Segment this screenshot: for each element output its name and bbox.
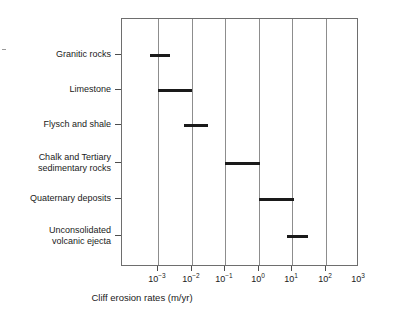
ytick-quaternary-deposits bbox=[115, 198, 121, 199]
xlabel-1e1-mantissa: 10 bbox=[284, 274, 294, 284]
ylabel-quaternary-deposits: Quaternary deposits bbox=[30, 193, 111, 204]
ytick-chalk-and-tertiary-sedimentary-rocks bbox=[115, 162, 121, 163]
gridline-1e-2 bbox=[192, 19, 193, 265]
x-axis-title-text: Cliff erosion rates (m/yr) bbox=[91, 292, 192, 303]
gridline-1e0 bbox=[259, 19, 260, 265]
xlabel-1e3-exponent: 3 bbox=[361, 272, 365, 279]
xlabel-1e0-mantissa: 10 bbox=[251, 274, 261, 284]
x-axis-title: Cliff erosion rates (m/yr) bbox=[0, 292, 396, 303]
cliff-erosion-rates-chart: Granitic rocks Limestone Flysch and shal… bbox=[0, 0, 396, 321]
ylabel-chalk-and-tertiary-sedimentary-rocks: Chalk and Tertiary sedimentary rocks bbox=[38, 152, 111, 174]
ylabel-flysch-and-shale: Flysch and shale bbox=[43, 119, 111, 130]
xlabel-1e-1: 10−1 bbox=[215, 274, 232, 285]
edge-artifact-mark bbox=[2, 49, 6, 50]
xlabel-1e1-exponent: 1 bbox=[294, 272, 298, 279]
ytick-limestone bbox=[115, 89, 121, 90]
xlabel-1e-2: 10−2 bbox=[182, 274, 199, 285]
xlabel-1e3-mantissa: 10 bbox=[351, 274, 361, 284]
ylabel-unconsolidated-volcanic-ejecta: Unconsolidated volcanic ejecta bbox=[49, 225, 111, 247]
xlabel-1e0: 100 bbox=[251, 274, 265, 285]
ylabel-limestone: Limestone bbox=[69, 84, 111, 95]
xlabel-1e2-exponent: 2 bbox=[328, 272, 332, 279]
gridline-1e1 bbox=[292, 19, 293, 265]
xlabel-1e-2-mantissa: 10 bbox=[182, 274, 192, 284]
xlabel-1e-1-mantissa: 10 bbox=[215, 274, 225, 284]
xlabel-1e-1-exponent: −1 bbox=[225, 272, 232, 279]
xtick-1e-1 bbox=[224, 266, 225, 271]
ylabel-granitic-rocks: Granitic rocks bbox=[56, 49, 111, 60]
ytick-granitic-rocks bbox=[115, 54, 121, 55]
ytick-unconsolidated-volcanic-ejecta bbox=[115, 235, 121, 236]
bar-chalk-and-tertiary-sedimentary-rocks bbox=[225, 162, 260, 165]
xtick-1e-2 bbox=[191, 266, 192, 271]
xlabel-1e3: 103 bbox=[351, 274, 365, 285]
xtick-1e-3 bbox=[157, 266, 158, 271]
gridline-1e2 bbox=[326, 19, 327, 265]
xtick-1e0 bbox=[258, 266, 259, 271]
xtick-1e1 bbox=[291, 266, 292, 271]
xlabel-1e-3: 10−3 bbox=[148, 274, 165, 285]
bar-unconsolidated-volcanic-ejecta bbox=[287, 235, 308, 238]
xlabel-1e1: 101 bbox=[284, 274, 298, 285]
xlabel-1e-2-exponent: −2 bbox=[192, 272, 199, 279]
bar-granitic-rocks bbox=[150, 54, 170, 57]
xlabel-1e2-mantissa: 10 bbox=[318, 274, 328, 284]
plot-area bbox=[121, 18, 358, 266]
bar-quaternary-deposits bbox=[259, 198, 294, 201]
bar-flysch-and-shale bbox=[184, 124, 208, 127]
xlabel-1e0-exponent: 0 bbox=[261, 272, 265, 279]
bar-limestone bbox=[158, 89, 192, 92]
xlabel-1e-3-mantissa: 10 bbox=[148, 274, 158, 284]
xlabel-1e2: 102 bbox=[318, 274, 332, 285]
ytick-flysch-and-shale bbox=[115, 124, 121, 125]
gridline-1e-1 bbox=[225, 19, 226, 265]
xlabel-1e-3-exponent: −3 bbox=[158, 272, 165, 279]
xtick-1e2 bbox=[325, 266, 326, 271]
